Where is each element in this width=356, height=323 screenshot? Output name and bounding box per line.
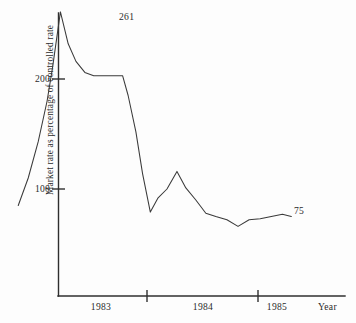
chart-container: Market rate as percentage of controlled … — [0, 0, 356, 323]
chart-plot-area — [0, 0, 356, 323]
